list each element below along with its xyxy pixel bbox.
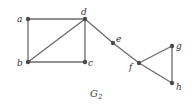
edge-f-g	[139, 46, 172, 63]
graph-diagram: a b c d e f g h G2	[0, 0, 192, 104]
edges	[28, 19, 172, 83]
edge-d-e	[85, 19, 113, 43]
graph-title-main: G	[90, 88, 98, 99]
graph-title-subscript: 2	[97, 93, 103, 101]
node-g	[170, 44, 174, 48]
label-f: f	[128, 62, 134, 72]
label-g: g	[176, 41, 182, 51]
label-b: b	[17, 58, 23, 68]
node-e	[111, 41, 115, 45]
label-a: a	[17, 14, 22, 24]
edge-f-h	[139, 63, 172, 83]
graph-title: G2	[90, 88, 103, 101]
label-h: h	[176, 82, 182, 92]
node-f	[137, 61, 141, 65]
edge-e-f	[113, 43, 139, 63]
edge-b-d	[28, 19, 85, 62]
nodes	[26, 17, 174, 85]
node-b	[26, 60, 30, 64]
node-h	[170, 81, 174, 85]
label-c: c	[88, 58, 93, 68]
node-labels: a b c d e f g h	[17, 7, 182, 92]
node-d	[83, 17, 87, 21]
node-c	[83, 60, 87, 64]
label-d: d	[81, 7, 87, 17]
label-e: e	[116, 34, 121, 44]
node-a	[26, 17, 30, 21]
